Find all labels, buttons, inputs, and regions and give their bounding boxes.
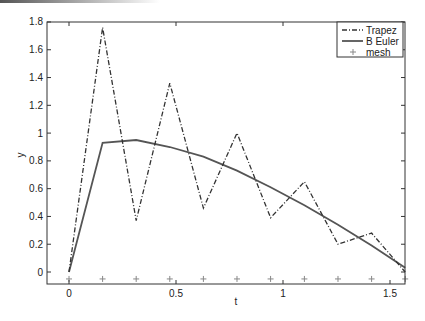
legend-entry-label: mesh	[366, 47, 390, 58]
legend: TrapezB Eulermesh	[337, 22, 403, 58]
y-tick-label: 1.6	[29, 44, 43, 55]
mesh-marker	[268, 276, 274, 282]
mesh-marker	[234, 276, 240, 282]
mesh-marker	[167, 276, 173, 282]
mesh-marker	[100, 276, 106, 282]
mesh-marker	[301, 276, 307, 282]
line-chart: 00.20.40.60.811.21.41.61.800.511.5 t y T…	[0, 0, 425, 321]
axes: 00.20.40.60.811.21.41.61.800.511.5	[29, 16, 405, 299]
y-axis-label: y	[15, 153, 26, 158]
y-tick-label: 0.8	[29, 155, 43, 166]
plot-area	[66, 28, 408, 282]
y-tick-label: 1.8	[29, 16, 43, 27]
y-tick-label: 1.4	[29, 72, 43, 83]
y-tick-label: 0.6	[29, 183, 43, 194]
x-axis-label: t	[235, 296, 238, 307]
y-tick-label: 1	[37, 128, 43, 139]
y-tick-label: 0	[37, 267, 43, 278]
legend-entry-label: B Euler	[366, 36, 399, 47]
x-tick-label: 1	[280, 288, 286, 299]
mesh-marker	[335, 276, 341, 282]
y-tick-label: 1.2	[29, 100, 43, 111]
y-tick-label: 0.4	[29, 211, 43, 222]
legend-entry-label: Trapez	[366, 25, 397, 36]
x-tick-label: 1.5	[383, 288, 397, 299]
y-tick-label: 0.2	[29, 239, 43, 250]
mesh-marker	[200, 276, 206, 282]
mesh-marker	[133, 276, 139, 282]
mesh-marker	[369, 276, 375, 282]
series-b-euler	[69, 140, 405, 272]
x-tick-label: 0	[66, 288, 72, 299]
x-tick-label: 0.5	[169, 288, 183, 299]
